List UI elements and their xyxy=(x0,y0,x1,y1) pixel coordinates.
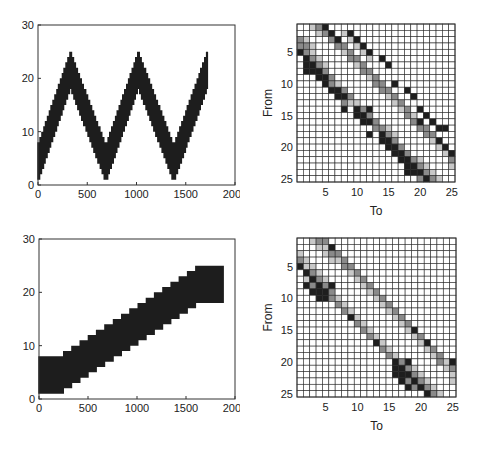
matrix-cell xyxy=(348,62,354,68)
matrix-cell xyxy=(367,340,373,346)
matrix-cell xyxy=(335,283,341,289)
matrix-cell xyxy=(335,94,341,100)
matrix-cell xyxy=(392,176,398,182)
matrix-cell xyxy=(373,75,379,81)
matrix-cell xyxy=(316,251,322,257)
matrix-cell xyxy=(297,346,303,352)
matrix-cell xyxy=(404,163,410,169)
matrix-cell xyxy=(450,346,456,352)
matrix-cell xyxy=(322,119,328,125)
matrix-cell xyxy=(411,238,417,244)
matrix-cell xyxy=(367,359,373,365)
matrix-cell xyxy=(303,106,309,112)
matrix-cell xyxy=(437,270,443,276)
matrix-cell xyxy=(386,263,392,269)
matrix-cell xyxy=(316,131,322,137)
matrix-cell xyxy=(443,308,449,314)
matrix-cell xyxy=(316,24,322,30)
matrix-cell xyxy=(361,321,367,327)
matrix-cell xyxy=(436,30,442,36)
matrix-cell xyxy=(405,302,411,308)
matrix-cell xyxy=(342,314,348,320)
matrix-cell xyxy=(310,308,316,314)
matrix-cell xyxy=(424,289,430,295)
matrix-cell xyxy=(354,62,360,68)
matrix-cell xyxy=(303,314,309,320)
matrix-cell xyxy=(348,263,354,269)
matrix-cell xyxy=(329,365,335,371)
matrix-cell xyxy=(361,302,367,308)
matrix-cell xyxy=(380,289,386,295)
matrix-cell xyxy=(342,308,348,314)
matrix-cell xyxy=(430,125,436,131)
matrix-cell xyxy=(430,131,436,137)
matrix-cell xyxy=(361,308,367,314)
matrix-cell xyxy=(322,340,328,346)
matrix-cell xyxy=(411,43,417,49)
matrix-cell xyxy=(423,81,429,87)
matrix-cell xyxy=(310,68,316,74)
matrix-cell xyxy=(385,49,391,55)
matrix-cell xyxy=(399,384,405,390)
matrix-cell xyxy=(399,283,405,289)
matrix-cell xyxy=(404,24,410,30)
matrix-cell xyxy=(386,251,392,257)
matrix-cell xyxy=(303,94,309,100)
matrix-cell xyxy=(341,157,347,163)
matrix-cell xyxy=(450,314,456,320)
matrix-cell xyxy=(430,56,436,62)
x-tick-label: 1500 xyxy=(174,188,198,200)
y-tick-label: 30 xyxy=(23,233,35,245)
matrix-cell xyxy=(360,169,366,175)
matrix-cell xyxy=(417,43,423,49)
matrix-cell xyxy=(385,30,391,36)
matrix-cell xyxy=(449,131,455,137)
matrix-cell xyxy=(398,87,404,93)
matrix-cell xyxy=(361,327,367,333)
matrix-cell xyxy=(386,352,392,358)
matrix-cell xyxy=(424,276,430,282)
matrix-cell xyxy=(297,106,303,112)
matrix-cell xyxy=(385,176,391,182)
matrix-cell xyxy=(392,346,398,352)
matrix-cell xyxy=(392,150,398,156)
matrix-cell xyxy=(360,43,366,49)
matrix-cell xyxy=(297,43,303,49)
matrix-cell xyxy=(411,372,417,378)
matrix-cell xyxy=(392,163,398,169)
x-tick-label: 0 xyxy=(35,188,41,200)
matrix-cell xyxy=(329,81,335,87)
matrix-cell xyxy=(329,333,335,339)
matrix-cell xyxy=(361,257,367,263)
matrix-cell xyxy=(335,302,341,308)
matrix-cell xyxy=(380,257,386,263)
matrix-cell xyxy=(418,295,424,301)
matrix-cell xyxy=(341,30,347,36)
matrix-cell xyxy=(316,125,322,131)
matrix-cell xyxy=(443,276,449,282)
matrix-cell xyxy=(348,75,354,81)
matrix-cell xyxy=(437,378,443,384)
y-tick-label: 20 xyxy=(22,72,34,84)
matrix-cell xyxy=(329,308,335,314)
matrix-cell xyxy=(423,131,429,137)
matrix-cell xyxy=(405,359,411,365)
matrix-cell xyxy=(424,302,430,308)
matrix-cell xyxy=(442,150,448,156)
matrix-cell xyxy=(386,314,392,320)
matrix-cell xyxy=(329,352,335,358)
matrix-cell xyxy=(316,163,322,169)
matrix-cell xyxy=(442,94,448,100)
matrix-cell xyxy=(385,37,391,43)
matrix-cell xyxy=(373,314,379,320)
matrix-cell xyxy=(417,37,423,43)
matrix-cell xyxy=(418,391,424,397)
matrix-cell xyxy=(335,238,341,244)
matrix-cell xyxy=(361,378,367,384)
matrix-cell xyxy=(437,283,443,289)
matrix-cell xyxy=(354,321,360,327)
matrix-cell xyxy=(342,333,348,339)
matrix-cell xyxy=(297,37,303,43)
matrix-cell xyxy=(367,283,373,289)
matrix-cell xyxy=(450,244,456,250)
